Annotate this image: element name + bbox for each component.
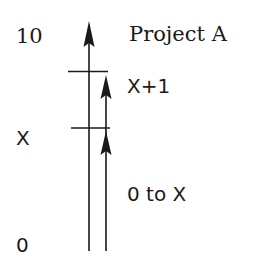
project-scale-diagram: 10 Project A X+1 X 0 to X 0 (0, 0, 263, 269)
upper-segment-label: X+1 (127, 76, 170, 96)
axis-label-bottom: 0 (16, 235, 29, 255)
axis-label-middle: X (16, 128, 30, 148)
axis-label-top: 10 (16, 26, 43, 47)
lower-segment-label: 0 to X (127, 184, 186, 204)
diagram-title: Project A (129, 24, 227, 45)
